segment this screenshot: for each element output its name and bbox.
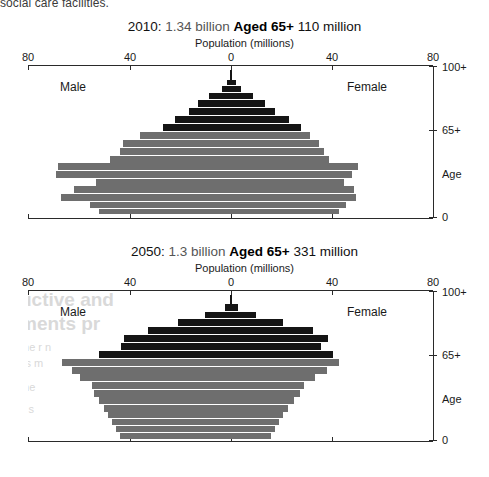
- y-axis-line-2050: [433, 291, 434, 441]
- bar-row-85-89: [209, 93, 253, 99]
- y-tick-label-65plus-2050: 65+: [442, 349, 461, 361]
- pyramid-plot-2050: uctive and ments pr the r n ss m me s s …: [28, 290, 433, 442]
- bar-row-30-34: [96, 179, 344, 186]
- x-axis-title-2010: Population (millions): [0, 36, 489, 51]
- bar-row-65-69-2050: [99, 351, 333, 358]
- bar-row-40-44-2050: [94, 390, 300, 397]
- chart-panel-2010: 2010: 1.34 billion Aged 65+ 110 million …: [0, 18, 489, 219]
- x-tick-label-zero: 0: [228, 51, 234, 63]
- bar-row-10-14-2050: [120, 433, 271, 439]
- chart-year-2050: 2050:: [131, 244, 165, 259]
- chart-aged-label-2010: Aged 65+: [234, 19, 294, 34]
- bar-row-35-39-2050: [99, 397, 294, 404]
- bar-row-50-54-2050: [80, 374, 315, 381]
- x-tick-label-left-80: 80: [22, 51, 34, 63]
- y-tick-mark-100plus-2050: [429, 291, 437, 292]
- bar-row-80-84: [198, 100, 265, 107]
- x-tick-mark-bottom-right-40: [332, 214, 333, 219]
- x-tick-label-right-40-2050: 40: [326, 276, 338, 288]
- x-tick-label-right-80: 80: [427, 51, 439, 63]
- y-axis-line-2010: [433, 66, 434, 218]
- bar-row-55-59-2050: [72, 367, 327, 374]
- x-tick-mark-right-40-2050: [332, 290, 333, 295]
- chart-year-2010: 2010:: [128, 19, 162, 34]
- bar-row-40-44: [58, 163, 358, 170]
- x-tick-label-right-40: 40: [326, 51, 338, 63]
- chart-total-2050: 1.3 billion: [169, 244, 226, 259]
- bar-row-10-14: [99, 209, 339, 214]
- x-tick-mark-left-80: [28, 65, 29, 70]
- bar-row-15-19-2050: [116, 426, 275, 432]
- x-tick-labels-2050: 80 40 0 40 80: [0, 276, 489, 290]
- y-tick-label-100plus-2050: 100+: [442, 286, 467, 298]
- x-tick-label-left-80-2050: 80: [22, 276, 34, 288]
- y-tick-label-0: 0: [442, 211, 448, 223]
- female-side-label-2050: Female: [347, 305, 387, 319]
- y-tick-label-65plus: 65+: [442, 124, 461, 136]
- bar-row-20-24: [61, 194, 356, 201]
- bar-row-60-64-2050: [62, 359, 339, 366]
- female-side-label-2010: Female: [347, 80, 387, 94]
- bar-row-100plus-2050: [230, 295, 232, 304]
- bar-row-45-49: [110, 156, 329, 163]
- chart-title-2010: 2010: 1.34 billion Aged 65+ 110 million: [0, 18, 489, 36]
- bar-row-90-94: [222, 86, 241, 92]
- x-axis-title-2050: Population (millions): [0, 261, 489, 276]
- x-tick-mark-left-40: [130, 65, 131, 70]
- bar-row-45-49-2050: [92, 382, 304, 389]
- bar-row-90-94-2050: [205, 312, 256, 318]
- bar-row-60-64: [140, 132, 310, 139]
- x-tick-labels-2010: 80 40 0 40 80: [0, 51, 489, 65]
- y-tick-mark-0-2050: [429, 440, 437, 441]
- y-tick-mark-65plus: [429, 130, 437, 131]
- y-axis-title-2050: Age: [442, 393, 462, 405]
- bar-row-80-84-2050: [148, 327, 313, 334]
- x-tick-mark-bottom-left-40: [130, 214, 131, 219]
- pyramid-plot-2010: 100+ 65+ 0 Age Male Female: [28, 65, 433, 219]
- bar-row-15-19: [90, 202, 346, 208]
- bar-row-35-39: [56, 171, 352, 178]
- chart-panel-2050: 2050: 1.3 billion Aged 65+ 331 million P…: [0, 243, 489, 442]
- bar-row-25-29-2050: [108, 412, 283, 418]
- x-tick-label-zero-2050: 0: [228, 276, 234, 288]
- y-tick-label-0-2050: 0: [442, 434, 448, 446]
- bar-row-95-99: [227, 80, 236, 85]
- bar-row-20-24-2050: [112, 419, 279, 425]
- chart-aged-label-2050: Aged 65+: [229, 244, 289, 259]
- bar-row-85-89-2050: [178, 319, 283, 326]
- bar-row-50-54: [120, 148, 324, 155]
- y-tick-mark-100plus: [429, 66, 437, 67]
- chart-aged-value-2010: 110 million: [298, 19, 362, 34]
- x-tick-mark-right-40: [332, 65, 333, 70]
- chart-aged-value-2050: 331 million: [294, 244, 359, 259]
- bar-row-70-74-2050: [121, 343, 321, 350]
- x-tick-mark-left-40-2050: [130, 290, 131, 295]
- bar-row-70-74: [175, 116, 289, 123]
- bar-row-25-29: [74, 186, 354, 193]
- bar-row-95-99-2050: [225, 304, 238, 311]
- bar-row-55-59: [123, 140, 319, 147]
- bar-row-75-79: [189, 108, 275, 115]
- male-side-label-2050: Male: [60, 305, 86, 319]
- y-axis-title-2010: Age: [442, 168, 462, 180]
- x-tick-label-left-40-2050: 40: [124, 276, 136, 288]
- x-tick-label-right-80-2050: 80: [427, 276, 439, 288]
- page-bleed-text: social care facilities.: [0, 0, 489, 12]
- bar-row-65-69: [163, 124, 301, 131]
- bar-row-75-79-2050: [124, 335, 328, 342]
- x-tick-label-left-40: 40: [124, 51, 136, 63]
- bar-row-30-34-2050: [104, 405, 288, 412]
- x-tick-mark-left-80-2050: [28, 290, 29, 295]
- x-tick-mark-bottom-left-80-2050: [28, 437, 29, 442]
- chart-title-2050: 2050: 1.3 billion Aged 65+ 331 million: [0, 243, 489, 261]
- x-tick-mark-bottom-right-40-2050: [332, 437, 333, 442]
- y-tick-mark-0: [429, 217, 437, 218]
- y-tick-label-100plus: 100+: [442, 61, 467, 73]
- bar-row-100plus: [230, 70, 232, 80]
- y-tick-mark-65plus-2050: [429, 355, 437, 356]
- male-side-label-2010: Male: [60, 80, 86, 94]
- x-tick-mark-bottom-left-80: [28, 214, 29, 219]
- chart-total-2010: 1.34 billion: [165, 19, 230, 34]
- x-tick-mark-bottom-zero: [231, 214, 232, 219]
